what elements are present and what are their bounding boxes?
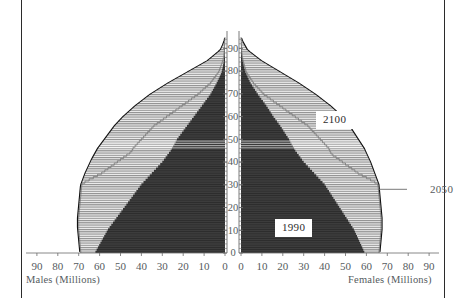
svg-text:30: 30 [298,260,310,272]
svg-text:30: 30 [228,179,239,190]
figure-right-border [444,0,445,298]
svg-text:70: 70 [73,260,85,272]
svg-text:60: 60 [94,260,106,272]
svg-text:40: 40 [319,260,331,272]
svg-text:0: 0 [222,260,228,272]
svg-text:80: 80 [403,260,415,272]
chart-plot-area: 0102030405060708090908070605040302010001… [22,4,443,294]
population-pyramid-figure: 0102030405060708090908070605040302010001… [0,0,463,298]
svg-text:80: 80 [228,65,239,76]
svg-text:50: 50 [228,134,239,145]
svg-text:20: 20 [277,260,289,272]
pyramid-svg: 0102030405060708090908070605040302010001… [22,4,443,294]
svg-text:90: 90 [31,260,43,272]
svg-text:50: 50 [115,260,127,272]
svg-text:20: 20 [228,202,239,213]
label-1990: 1990 [275,219,312,237]
males-axis-caption: Males (Millions) [26,274,100,285]
svg-text:70: 70 [228,88,239,99]
svg-text:50: 50 [340,260,352,272]
svg-text:40: 40 [136,260,148,272]
svg-text:10: 10 [199,260,211,272]
svg-text:20: 20 [178,260,190,272]
females-axis-caption: Females (Millions) [348,274,432,285]
svg-text:60: 60 [361,260,373,272]
svg-text:0: 0 [238,260,244,272]
svg-text:30: 30 [157,260,169,272]
svg-text:10: 10 [228,225,239,236]
svg-text:60: 60 [228,111,239,122]
svg-text:40: 40 [228,156,239,167]
svg-text:10: 10 [256,260,268,272]
svg-text:90: 90 [424,260,436,272]
svg-text:0: 0 [230,247,235,258]
label-2100: 2100 [316,111,353,129]
svg-text:70: 70 [382,260,394,272]
svg-text:80: 80 [52,260,64,272]
callout-2050-label: 2050 [430,183,453,195]
svg-text:90: 90 [228,43,239,54]
